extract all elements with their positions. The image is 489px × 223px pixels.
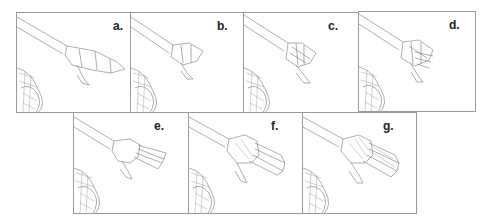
panel-b: b. [130,12,244,113]
panel-label: d. [449,18,460,32]
panel-g: g. [302,112,417,214]
panel-f: f. [188,112,303,214]
panel-e: e. [73,112,189,214]
panel-label: e. [154,119,164,133]
wireframe-arm-hand-stage-e [74,113,189,214]
panel-label: f. [271,119,278,133]
panel-label: g. [383,119,394,133]
panel-d: d. [358,11,476,112]
wireframe-arm-hand-stage-c [244,13,359,113]
wireframe-arm-hand-stage-g [303,113,417,214]
panel-label: c. [328,19,338,33]
panel-label: b. [217,19,228,33]
panel-label: a. [113,19,123,33]
panel-a: a. [16,12,131,113]
wireframe-arm-hand-stage-f [189,113,303,214]
panel-c: c. [243,12,359,113]
